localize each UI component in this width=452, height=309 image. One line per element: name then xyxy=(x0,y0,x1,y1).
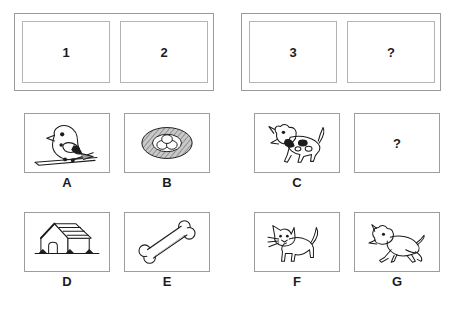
card-b[interactable] xyxy=(124,113,210,173)
card-d-label: D xyxy=(24,275,110,288)
number-cell-3[interactable]: 3 xyxy=(249,21,337,83)
card-f-label: F xyxy=(254,275,340,288)
nest-with-eggs-icon xyxy=(125,114,209,172)
number-cell-question-label: ? xyxy=(387,46,395,59)
question-mark-icon: ? xyxy=(355,114,439,172)
card-answer-unknown[interactable]: ? xyxy=(354,113,440,173)
number-cell-3-label: 3 xyxy=(289,46,296,59)
number-cell-1[interactable]: 1 xyxy=(22,21,110,83)
spotted-dog-icon xyxy=(255,114,339,172)
card-c[interactable] xyxy=(254,113,340,173)
card-a-label: A xyxy=(24,176,110,189)
number-cell-2[interactable]: 2 xyxy=(120,21,208,83)
card-e[interactable] xyxy=(124,212,210,272)
card-c-label: C xyxy=(254,176,340,189)
card-b-label: B xyxy=(124,176,210,189)
puzzle-canvas: 1 2 3 ? xyxy=(0,0,452,309)
number-cell-question[interactable]: ? xyxy=(347,21,435,83)
card-a[interactable] xyxy=(24,113,110,173)
card-e-label: E xyxy=(124,275,210,288)
card-f[interactable] xyxy=(254,212,340,272)
card-g-label: G xyxy=(354,275,440,288)
running-dog-icon xyxy=(355,213,439,271)
card-g[interactable] xyxy=(354,212,440,272)
bone-icon xyxy=(125,213,209,271)
number-cell-1-label: 1 xyxy=(62,46,69,59)
number-cell-2-label: 2 xyxy=(160,46,167,59)
card-d[interactable] xyxy=(24,212,110,272)
doghouse-icon xyxy=(25,213,109,271)
bird-icon xyxy=(25,114,109,172)
cat-icon xyxy=(255,213,339,271)
